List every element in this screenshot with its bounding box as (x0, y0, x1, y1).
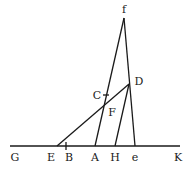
label-F: F (108, 106, 116, 119)
geometric-diagram: f D C F G E B A H e K (0, 0, 190, 172)
label-e: e (132, 151, 139, 164)
label-E: E (47, 151, 55, 164)
label-K: K (174, 151, 183, 164)
label-D: D (135, 75, 144, 88)
label-C: C (93, 89, 101, 102)
line-DH (115, 84, 129, 146)
label-B: B (65, 151, 73, 164)
label-G: G (11, 151, 20, 164)
label-f: f (122, 3, 127, 16)
line-fe (124, 18, 135, 146)
label-H: H (110, 151, 120, 164)
label-A: A (90, 151, 100, 164)
